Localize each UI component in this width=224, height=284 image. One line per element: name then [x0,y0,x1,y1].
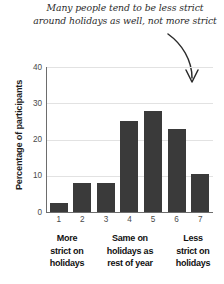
x-tick-6: 6 [168,215,186,227]
x-tick-3: 3 [97,215,115,227]
bar-6 [168,129,186,212]
bar-7 [191,174,209,212]
x-tick-7: 7 [191,215,209,227]
x-group-label-less-strict: Less strict on holidays [166,232,220,282]
bar-1 [50,203,68,212]
bar-5 [144,111,162,213]
bar-3 [97,183,115,212]
bar-4 [120,121,138,212]
chart-annotation-text: Many people tend to be less strict aroun… [28,2,222,27]
x-tick-2: 2 [73,215,91,227]
y-axis-label: Percentage of participants [14,60,24,210]
x-tick-1: 1 [50,215,68,227]
x-group-label-same: Same on holidays as rest of year [96,232,164,282]
x-axis-ticks: 1 2 3 4 5 6 7 [47,215,212,227]
x-tick-4: 4 [120,215,138,227]
x-axis-group-labels: More strict on holidays Same on holidays… [40,232,220,282]
x-group-label-more-strict: More strict on holidays [40,232,94,282]
bar-series [47,67,212,212]
bar-2 [73,183,91,212]
x-tick-5: 5 [144,215,162,227]
